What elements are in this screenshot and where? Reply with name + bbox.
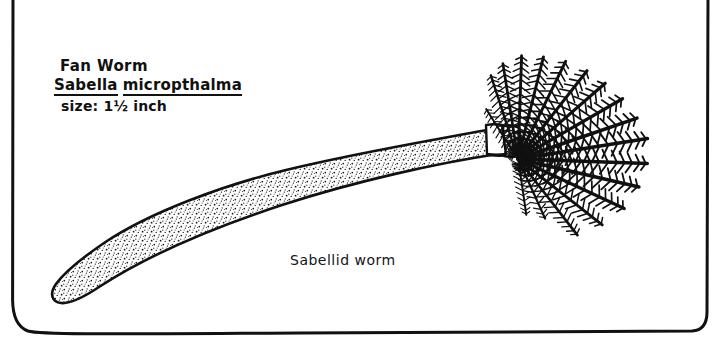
specimen-label: Fan Worm Sabellamicropthalma size: 1½ in… <box>54 58 242 114</box>
figure-caption: Sabellid worm <box>290 252 396 268</box>
radiole-crown <box>482 55 649 244</box>
species-epithet: micropthalma <box>123 76 242 96</box>
scientific-name: Sabellamicropthalma <box>54 77 242 94</box>
ink-drawing <box>0 0 717 349</box>
illustration-plate: Fan Worm Sabellamicropthalma size: 1½ in… <box>0 0 717 349</box>
worm-tube <box>52 120 510 303</box>
common-name: Fan Worm <box>54 58 242 75</box>
genus-name: Sabella <box>54 76 118 96</box>
size-note: size: 1½ inch <box>54 98 242 114</box>
